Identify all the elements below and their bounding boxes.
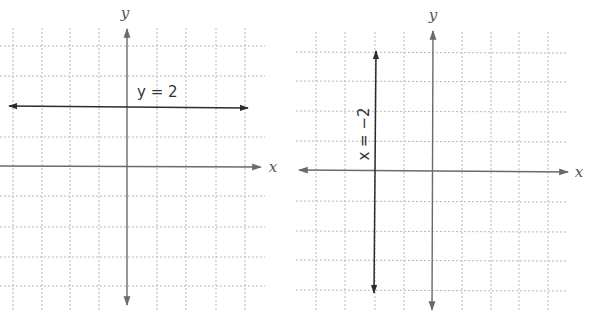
x-axis-right <box>299 170 568 172</box>
line-y-equals-2 <box>9 106 248 108</box>
equation-label-x-equals-minus-2: x = −2 <box>355 107 373 160</box>
x-axis-left <box>0 166 261 167</box>
equation-label-y-equals-2: y = 2 <box>137 83 178 101</box>
x-axis-label-right: x <box>575 163 584 181</box>
y-axis-right <box>432 31 433 310</box>
graph-x-equals-minus-2: y x x = −2 <box>296 6 584 312</box>
x-axis-label-left: x <box>269 158 278 176</box>
graph-y-equals-2: y x y = 2 <box>0 4 278 310</box>
line-x-equals-minus-2 <box>374 51 376 293</box>
y-axis-label-left: y <box>120 4 130 22</box>
grid-left <box>0 28 265 310</box>
graphs-canvas: y x y = 2 <box>0 0 593 321</box>
y-axis-label-right: y <box>428 6 438 24</box>
